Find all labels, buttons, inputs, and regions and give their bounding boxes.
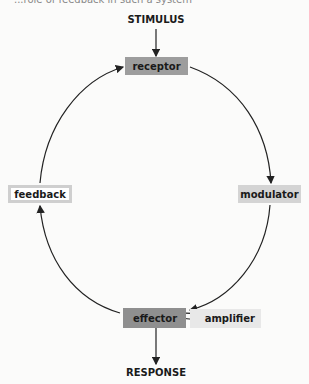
amplifier-node: amplifier xyxy=(190,309,261,328)
modulator-node: modulator xyxy=(238,185,301,203)
receptor-node: receptor xyxy=(125,57,188,75)
feedback-receptor-arrow xyxy=(40,67,123,183)
response-label: RESPONSE xyxy=(106,367,206,378)
stimulus-label: STIMULUS xyxy=(106,14,206,25)
receptor-modulator-arrow xyxy=(190,67,271,183)
feedback-node: feedback xyxy=(8,185,72,203)
effector-feedback-arrow xyxy=(40,206,120,313)
modulator-effector-arrow xyxy=(190,205,270,310)
effector-node: effector xyxy=(123,308,186,328)
